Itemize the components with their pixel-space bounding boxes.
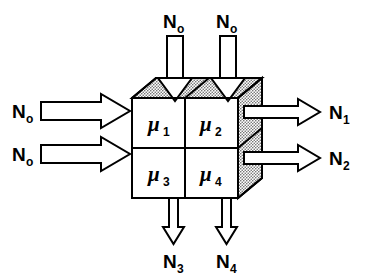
mu2-symbol: μ bbox=[199, 112, 212, 136]
n0-left-top-sub: o bbox=[26, 112, 33, 126]
n0-left-bottom-base: N bbox=[12, 144, 26, 165]
n0-top-left-sub: o bbox=[177, 22, 184, 36]
mu4-subscript: 4 bbox=[215, 175, 222, 189]
flux-diagram-container: μ 1 μ 2 μ 3 μ 4 N o N o N o bbox=[0, 0, 370, 277]
mu1-symbol: μ bbox=[147, 112, 160, 136]
n1-base: N bbox=[329, 102, 343, 123]
mu3-symbol: μ bbox=[147, 162, 160, 186]
n3-base: N bbox=[163, 251, 177, 272]
flux-diagram: μ 1 μ 2 μ 3 μ 4 N o N o N o bbox=[0, 0, 370, 277]
mu1-subscript: 1 bbox=[163, 125, 170, 139]
n0-top-right-base: N bbox=[216, 11, 230, 32]
n0-top-right-sub: o bbox=[230, 22, 237, 36]
n4-sub: 4 bbox=[230, 262, 237, 276]
n2-base: N bbox=[329, 148, 343, 169]
n1-sub: 1 bbox=[343, 113, 350, 127]
mu2-subscript: 2 bbox=[215, 125, 222, 139]
mu3-subscript: 3 bbox=[163, 175, 170, 189]
mu4-symbol: μ bbox=[199, 162, 212, 186]
n2-sub: 2 bbox=[343, 159, 350, 173]
n3-sub: 3 bbox=[177, 262, 184, 276]
n0-left-top-base: N bbox=[12, 101, 26, 122]
n4-base: N bbox=[216, 251, 230, 272]
n0-left-bottom-sub: o bbox=[26, 155, 33, 169]
n0-top-left-base: N bbox=[163, 11, 177, 32]
